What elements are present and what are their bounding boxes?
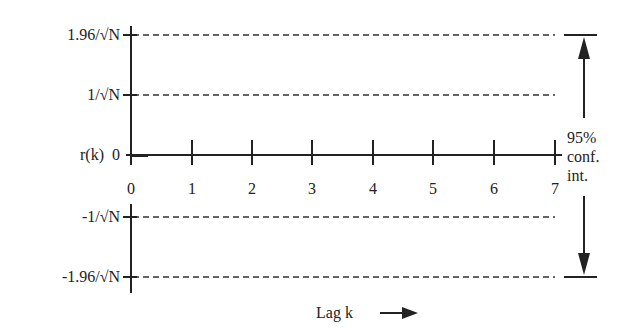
x-tick-3: 3	[302, 181, 322, 197]
annotation-line-3: int.	[567, 166, 599, 185]
x-tick-4: 4	[363, 181, 383, 197]
y-label-lower-95: -1.96/√N	[0, 269, 120, 285]
x-axis-label: Lag k	[316, 305, 353, 321]
confidence-annotation: 95% conf. int.	[567, 128, 599, 185]
arrow-up-icon	[578, 37, 590, 59]
x-tick-5: 5	[423, 181, 443, 197]
y-label-upper-1se: 1/√N	[0, 87, 120, 103]
y-label-zero: r(k) 0	[0, 147, 120, 163]
x-tick-7: 7	[545, 181, 565, 197]
arrow-down-icon	[578, 253, 590, 275]
x-direction-arrow-icon	[380, 307, 418, 319]
x-tick-2: 2	[242, 181, 262, 197]
acf-confidence-diagram: 1.96/√N 1/√N r(k) 0 -1/√N -1.96/√N 0 1 2…	[0, 0, 636, 335]
y-label-lower-1se: -1/√N	[0, 209, 120, 225]
annotation-line-2: conf.	[567, 147, 599, 166]
x-tick-6: 6	[484, 181, 504, 197]
y-label-upper-95: 1.96/√N	[0, 27, 120, 43]
x-ticks	[131, 140, 555, 165]
x-tick-1: 1	[182, 181, 202, 197]
x-tick-0: 0	[121, 181, 141, 197]
annotation-line-1: 95%	[567, 128, 599, 147]
